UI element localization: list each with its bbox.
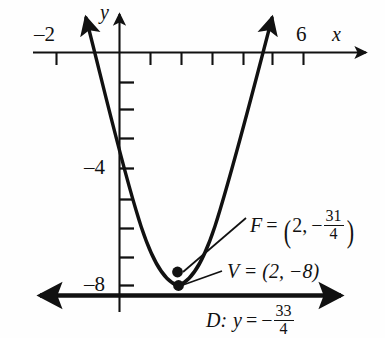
focus-close-paren: ) (346, 215, 353, 247)
focus-y-numerator: 31 (324, 208, 344, 225)
focus-x-value: 2 (292, 214, 302, 236)
y-axis-label: y (100, 2, 109, 22)
focus-minus-sign: − (311, 214, 322, 236)
x-tick-label-neg2: –2 (34, 24, 55, 45)
directrix-annotation: D:y=−334 (206, 303, 295, 337)
directrix-fraction: 334 (274, 303, 294, 337)
graph-canvas (0, 0, 385, 338)
y-axis-ticks (120, 83, 135, 286)
parabola-figure: –2 6 x y –4 –8 F=(2,−314) V = (2, −8) D:… (0, 0, 385, 338)
vertex-label-text: V = (2, −8) (227, 260, 319, 282)
directrix-numerator: 33 (274, 303, 294, 320)
directrix-variable: y (233, 309, 242, 331)
x-tick-label-6: 6 (296, 24, 307, 45)
y-tick-label-neg8: –8 (84, 274, 105, 295)
directrix-prefix: D: (206, 309, 227, 331)
x-axis (33, 53, 366, 66)
focus-y-fraction: 314 (324, 208, 344, 242)
directrix-denominator: 4 (274, 320, 294, 338)
directrix-equals: = (246, 309, 257, 331)
directrix-minus-sign: − (261, 309, 272, 331)
focus-point (172, 267, 183, 278)
x-axis-label: x (332, 24, 341, 44)
focus-equals: = (266, 214, 277, 236)
vertex-annotation: V = (2, −8) (227, 261, 319, 281)
focus-comma: , (302, 214, 307, 236)
focus-open-paren: ( (283, 215, 290, 247)
focus-annotation: F=(2,−314) (250, 208, 355, 247)
vertex-point (173, 280, 184, 291)
y-tick-label-neg4: –4 (84, 157, 105, 178)
focus-y-denominator: 4 (324, 225, 344, 243)
focus-label-letter: F (250, 214, 262, 236)
